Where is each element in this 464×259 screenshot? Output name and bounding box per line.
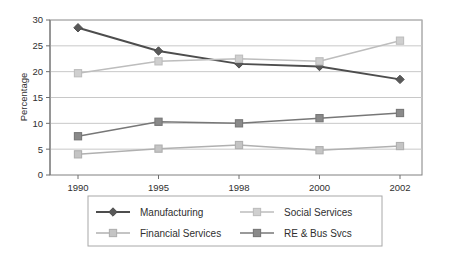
x-tick-label-1998: 1998 xyxy=(228,182,249,193)
legend-marker xyxy=(109,229,116,236)
legend-marker xyxy=(253,208,260,215)
legend-marker xyxy=(253,229,260,236)
data-point-2000 xyxy=(316,147,323,154)
data-point-2000 xyxy=(316,58,323,65)
legend-label: Manufacturing xyxy=(140,207,203,218)
x-tick-label-2002: 2002 xyxy=(389,182,410,193)
data-point-1990 xyxy=(74,151,81,158)
y-tick-label-25: 25 xyxy=(32,40,43,51)
y-tick-label-30: 30 xyxy=(32,14,43,25)
legend-item-financial-services[interactable]: Financial Services xyxy=(96,228,221,239)
data-point-1990 xyxy=(74,70,81,77)
data-point-2002 xyxy=(396,109,403,116)
x-tick-label-1990: 1990 xyxy=(67,182,88,193)
y-tick-label-15: 15 xyxy=(32,92,43,103)
data-point-1998 xyxy=(235,120,242,127)
legend-item-social-services[interactable]: Social Services xyxy=(240,207,352,218)
y-tick-label-5: 5 xyxy=(38,144,43,155)
data-point-1995 xyxy=(155,58,162,65)
legend-label: Financial Services xyxy=(140,228,221,239)
data-point-2002 xyxy=(396,142,403,149)
legend-label: RE & Bus Svcs xyxy=(284,228,352,239)
legend-label: Social Services xyxy=(284,207,352,218)
data-point-1998 xyxy=(235,141,242,148)
chart-figure: 051015202530 Percentage 1990199519982000… xyxy=(0,0,464,259)
y-tick-label-10: 10 xyxy=(32,118,43,129)
y-axis-title: Percentage xyxy=(18,73,29,122)
data-point-1998 xyxy=(235,55,242,62)
y-tick-label-0: 0 xyxy=(38,169,43,180)
data-point-2002 xyxy=(396,37,403,44)
legend-item-re-bus-svcs[interactable]: RE & Bus Svcs xyxy=(240,228,352,239)
data-point-1995 xyxy=(155,118,162,125)
data-point-2000 xyxy=(316,115,323,122)
data-point-1995 xyxy=(155,145,162,152)
y-tick-label-20: 20 xyxy=(32,66,43,77)
x-tick-label-2000: 2000 xyxy=(309,182,330,193)
percentage-by-sector-line-chart: 051015202530 Percentage 1990199519982000… xyxy=(0,0,464,259)
data-point-1990 xyxy=(74,133,81,140)
legend-item-manufacturing[interactable]: Manufacturing xyxy=(96,207,203,218)
x-tick-label-1995: 1995 xyxy=(148,182,169,193)
